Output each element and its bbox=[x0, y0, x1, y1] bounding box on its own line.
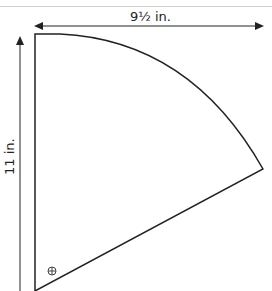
height-label: 11 in. bbox=[2, 138, 17, 175]
width-label: 9½ in. bbox=[130, 9, 171, 24]
height-dimension-arrow bbox=[16, 36, 24, 291]
crosshair-circle-icon bbox=[48, 267, 56, 275]
wedge-outline bbox=[35, 34, 263, 291]
pattern-diagram bbox=[0, 0, 272, 291]
